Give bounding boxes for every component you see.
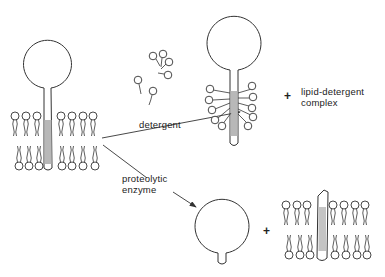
complex-label-line1: lipid-detergent [301, 86, 364, 97]
diagram-svg [0, 0, 385, 277]
detergent-label: detergent [139, 119, 181, 130]
released-head [195, 199, 249, 264]
proteolytic-label-line2: enzyme [122, 184, 156, 195]
plus-sign-top: + [284, 89, 291, 103]
proteolytic-arrow-segment2 [173, 192, 196, 207]
detergent-molecules [134, 50, 173, 105]
proteolytic-label-line1: proteolytic [122, 173, 168, 184]
membrane-protein-in-bilayer [11, 40, 99, 170]
plus-sign-bottom: + [263, 224, 270, 238]
solubilized-protein [205, 16, 261, 145]
left-bilayer-bottom-leaflet [15, 146, 99, 170]
diagram-canvas: detergent proteolytic enzyme + lipid-det… [0, 0, 385, 277]
left-bilayer-top-leaflet [11, 112, 97, 136]
complex-label-line2: complex [301, 97, 338, 108]
bilayer-with-stalk [282, 190, 371, 261]
